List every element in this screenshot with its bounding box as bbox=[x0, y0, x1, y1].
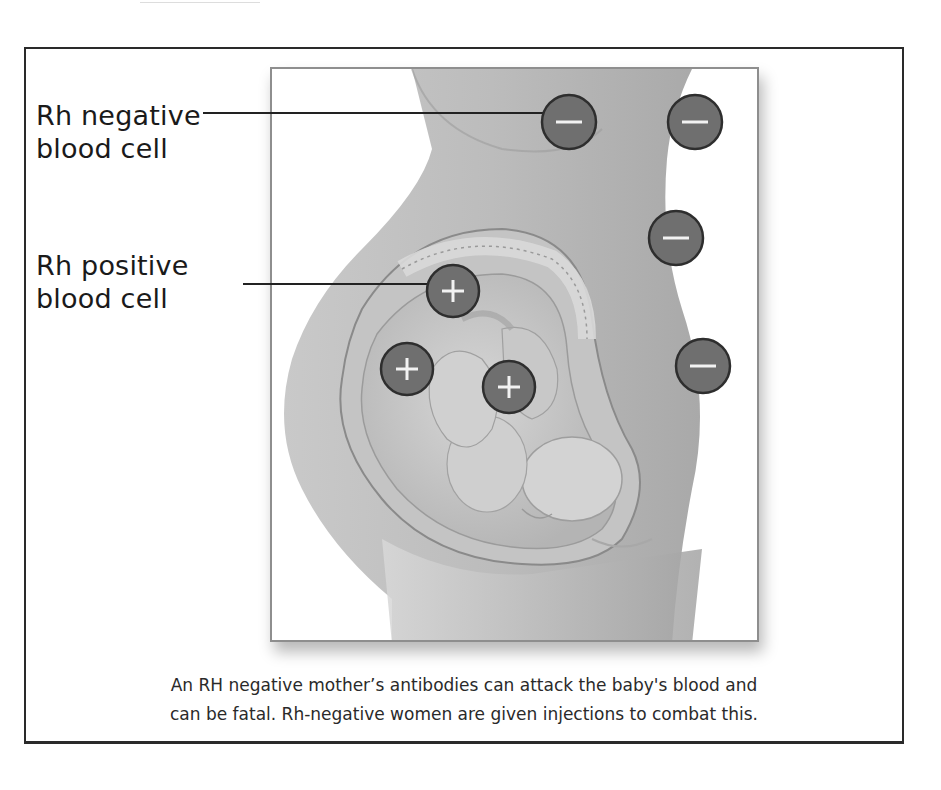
rh-negative-label-line2: blood cell bbox=[36, 132, 201, 165]
caption-line2: can be fatal. Rh-negative women are give… bbox=[26, 700, 902, 729]
rh-positive-label: Rh positive blood cell bbox=[36, 249, 189, 315]
rh-negative-label: Rh negative blood cell bbox=[36, 99, 201, 165]
pregnancy-illustration bbox=[270, 67, 759, 642]
caption: An RH negative mother’s antibodies can a… bbox=[26, 671, 902, 729]
rh-positive-label-line2: blood cell bbox=[36, 282, 189, 315]
rh-negative-label-line1: Rh negative bbox=[36, 99, 201, 132]
diagram-frame: Rh negative blood cell Rh positive blood… bbox=[24, 47, 904, 744]
rh-positive-label-line1: Rh positive bbox=[36, 249, 189, 282]
top-cropped-text-fragment bbox=[140, 0, 260, 3]
caption-line1: An RH negative mother’s antibodies can a… bbox=[26, 671, 902, 700]
